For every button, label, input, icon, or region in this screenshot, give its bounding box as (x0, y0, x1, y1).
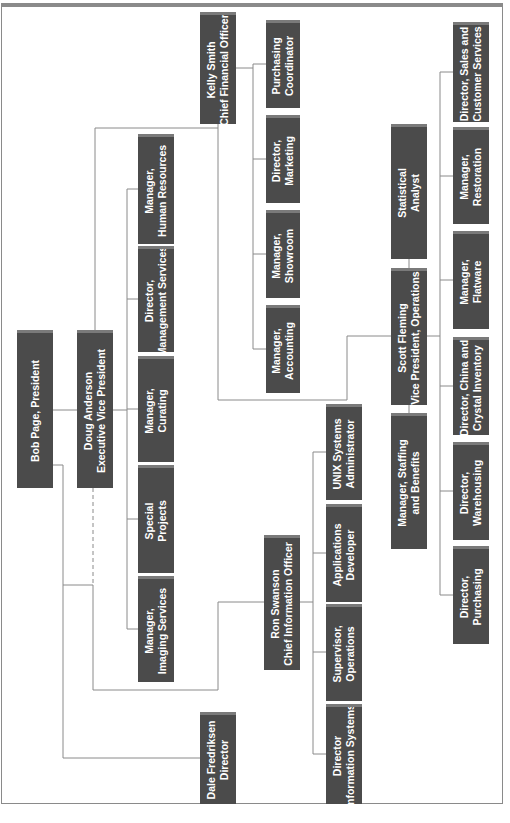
node-line2: and Benefits (409, 439, 422, 527)
node-line1: Manager, (458, 148, 471, 206)
node-line1: Manager, (270, 228, 283, 282)
node-line2: Information Systems (344, 704, 357, 804)
node-line1: Special (143, 500, 156, 541)
node-line2: Purchasing (471, 568, 484, 625)
node-line1: Manager, (143, 388, 156, 434)
node-title: Bob Page, President (29, 359, 42, 461)
node-title: Chief Information Officer (282, 542, 295, 666)
node-line2: Operations (344, 625, 357, 682)
node-manager-showroom: Manager,Showroom (266, 210, 300, 298)
node-line1: Statistical (396, 168, 409, 218)
node-ron-swanson: Ron SwansonChief Information Officer (264, 535, 300, 670)
node-manager-accounting: Manager,Accounting (266, 305, 300, 393)
node-line1: Manager, (270, 322, 283, 380)
node-line2: Flatware (471, 259, 484, 305)
node-director-china: Director, China andCrystal Inventory (453, 337, 489, 435)
node-line1: Director, China and (458, 339, 471, 435)
node-line2: Crystal Inventory (471, 339, 484, 435)
node-director-mgmt-services: Director,Management Services (138, 246, 174, 352)
node-line2: Marketing (283, 136, 296, 186)
node-name: Scott Fleming (396, 271, 409, 404)
node-director-sales: Director, Sales andCustomer Services (453, 22, 489, 122)
node-manager-imaging: Manager,Imaging Services (138, 576, 174, 682)
node-line1: Director, (458, 568, 471, 625)
node-line1: Director, (458, 459, 471, 525)
node-line1: Director, (270, 136, 283, 186)
node-manager-flatware: Manager,Flatware (453, 231, 489, 329)
node-title: Chief Financial Officer (218, 14, 231, 124)
node-scott-fleming: Scott FlemingVice President, Operations (391, 268, 427, 405)
node-manager-restoration: Manager,Restoration (453, 127, 489, 224)
node-line1: UNIX Systems (331, 418, 344, 489)
node-line2: Curating (156, 388, 169, 434)
node-line1: Director (331, 704, 344, 804)
node-line1: Manager, (458, 259, 471, 305)
node-special-projects: SpecialProjects (138, 465, 174, 573)
node-line1: Applications (331, 523, 344, 586)
node-line2: Management Services (156, 246, 169, 352)
node-line2: Projects (156, 500, 169, 541)
node-title: Executive Vice President (95, 348, 108, 472)
node-line1: Purchasing (270, 35, 283, 95)
node-line2: Restoration (471, 148, 484, 206)
node-director-warehousing: Director,Warehousing (453, 442, 489, 540)
node-dale-fredriksen: Dale FredriksenDirector (200, 712, 236, 804)
node-name: Dale Fredriksen (205, 720, 218, 799)
node-line2: Imaging Services (156, 587, 169, 673)
node-line2: Customer Services (471, 26, 484, 121)
node-line1: Manager, (143, 587, 156, 673)
node-line2: Developer (344, 523, 357, 586)
node-title: Vice President, Operations (409, 271, 422, 404)
node-line2: Administrator (344, 418, 357, 489)
node-title: Director (218, 720, 231, 799)
node-name: Kelly Smith (205, 14, 218, 124)
node-line1: Manager, (143, 144, 156, 236)
node-doug-anderson: Doug AndersonExecutive Vice President (77, 330, 113, 488)
node-name: Ron Swanson (269, 542, 282, 666)
node-line2: Accounting (283, 322, 296, 380)
node-line2: Analyst (409, 168, 422, 218)
node-line1: Supervisor, (331, 625, 344, 682)
node-manager-hr: Manager,Human Resources (138, 134, 174, 244)
node-statistical-analyst: StatisticalAnalyst (391, 124, 427, 259)
node-kelly-smith: Kelly SmithChief Financial Officer (200, 12, 236, 124)
node-director-info-systems: DirectorInformation Systems (326, 704, 362, 804)
node-director-purchasing: Director,Purchasing (453, 546, 489, 644)
node-name: Doug Anderson (82, 348, 95, 472)
node-line1: Director, (143, 246, 156, 352)
node-line2: Coordinator (283, 35, 296, 95)
node-line2: Human Resources (156, 144, 169, 236)
node-director-marketing: Director,Marketing (266, 115, 300, 203)
node-manager-curating: Manager,Curating (138, 356, 174, 462)
node-purchasing-coordinator: PurchasingCoordinator (266, 20, 300, 108)
node-line1: Director, Sales and (458, 26, 471, 121)
node-supervisor-operations: Supervisor,Operations (326, 604, 362, 701)
node-line2: Warehousing (471, 459, 484, 525)
node-manager-staffing: Manager, Staffingand Benefits (391, 413, 427, 549)
node-applications-developer: ApplicationsDeveloper (326, 504, 362, 602)
node-bob-page: Bob Page, President (17, 330, 53, 488)
node-line2: Showroom (283, 228, 296, 282)
node-line1: Manager, Staffing (396, 439, 409, 527)
node-unix-admin: UNIX SystemsAdministrator (326, 404, 362, 500)
